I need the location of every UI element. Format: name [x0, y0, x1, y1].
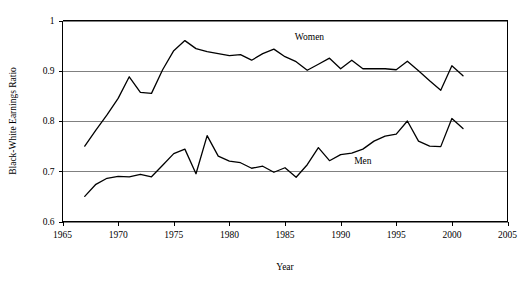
x-tick-label-1990: 1990	[331, 230, 350, 240]
x-tick-label-1965: 1965	[53, 230, 72, 240]
x-tick-label-1985: 1985	[276, 230, 295, 240]
series-line-men	[85, 118, 463, 196]
tick-labels-group: 0.60.70.80.91196519701975198019851990199…	[43, 16, 518, 240]
x-tick-label-2005: 2005	[498, 230, 517, 240]
x-axis-title: Year	[276, 262, 294, 272]
chart-container: 0.60.70.80.91196519701975198019851990199…	[0, 0, 531, 293]
series-annotations-group: WomenMen	[295, 32, 372, 166]
y-tick-label-0.8: 0.8	[43, 116, 55, 126]
line-chart: 0.60.70.80.91196519701975198019851990199…	[0, 0, 531, 293]
series-line-women	[85, 41, 463, 147]
x-tick-label-1980: 1980	[220, 230, 239, 240]
y-tick-label-0.9: 0.9	[43, 66, 55, 76]
x-tick-label-2000: 2000	[442, 230, 461, 240]
x-tick-label-1970: 1970	[109, 230, 128, 240]
series-label-women: Women	[295, 32, 325, 42]
x-tick-label-1995: 1995	[387, 230, 406, 240]
y-tick-label-0.7: 0.7	[43, 167, 55, 177]
y-axis-title: Black-White Earnings Ratio	[8, 67, 18, 175]
gridlines-group	[63, 22, 508, 223]
x-tick-label-1975: 1975	[164, 230, 183, 240]
y-tick-label-1: 1	[50, 16, 55, 26]
series-label-men: Men	[354, 156, 372, 166]
tick-marks-group	[59, 22, 509, 226]
series-paths-group	[85, 41, 463, 197]
y-tick-label-0.6: 0.6	[43, 217, 55, 227]
